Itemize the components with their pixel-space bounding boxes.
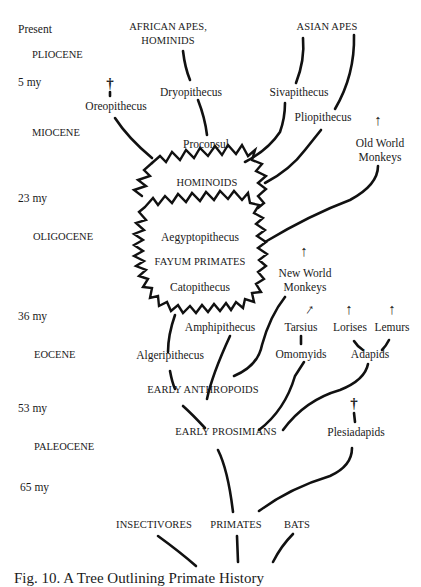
time-36my: 36 my <box>18 309 47 323</box>
node-tarsius: Tarsius <box>284 320 317 334</box>
node-african-apes: AFRICAN APES, HOMINIDS <box>129 20 207 48</box>
arrow-up-icon: ↑ <box>388 302 396 317</box>
branch-primates-root <box>237 536 238 562</box>
branch-hominoids-oreopithecus <box>115 118 152 158</box>
node-hominoids: HOMINOIDS <box>177 176 238 190</box>
branch-fayum-oldworld <box>265 166 378 242</box>
node-algeripithecus: Algeripithecus <box>136 348 204 362</box>
node-early-anthropoids: EARLY ANTHROPOIDS <box>147 383 258 397</box>
extinct-dagger-icon: † <box>350 396 358 411</box>
epoch-pliocene: PLIOCENE <box>32 48 83 62</box>
epoch-oligocene: OLIGOCENE <box>33 230 93 244</box>
time-present: Present <box>18 22 52 36</box>
branch-sivapithecus-asian <box>296 38 303 83</box>
branch-primates-plesiadapids <box>259 448 352 511</box>
node-early-prosimians: EARLY PROSIMIANS <box>175 425 276 439</box>
node-primates: PRIMATES <box>210 518 262 532</box>
epoch-miocene: MIOCENE <box>32 126 80 140</box>
node-bats: BATS <box>284 518 310 532</box>
node-proconsul: Proconsul <box>183 137 229 151</box>
fayum-zigzag-border <box>134 191 267 313</box>
arrow-up-icon: ↑ <box>300 244 308 259</box>
branch-hominoids-pliopithecus <box>265 130 321 183</box>
node-asian-apes: ASIAN APES <box>297 20 358 34</box>
branch-bats-root <box>273 534 293 562</box>
node-lemurs: Lemurs <box>374 320 409 334</box>
node-oreopithecus: Oreopithecus <box>85 99 146 113</box>
node-plesiadapids: Plesiadapids <box>327 425 385 439</box>
node-old-world-monkeys: Old World Monkeys <box>356 136 404 164</box>
branch-prosimians-omomyids <box>259 362 304 430</box>
node-pliopithecus: Pliopithecus <box>295 110 352 124</box>
arrow-up-icon: ↑ <box>374 113 382 128</box>
node-omomyids: Omomyids <box>275 347 326 361</box>
time-65my: 65 my <box>20 480 49 494</box>
branch-insectivores-root <box>158 536 196 566</box>
extinct-dagger-icon: † <box>106 76 114 91</box>
node-catopithecus: Catopithecus <box>170 280 230 294</box>
node-insectivores: INSECTIVORES <box>116 518 192 532</box>
node-amphipithecus: Amphipithecus <box>185 320 255 334</box>
branch-anthropoids-newworld <box>234 297 285 376</box>
hominoids-zigzag-left <box>134 163 152 196</box>
node-adapids: Adapids <box>351 347 389 361</box>
arrow-up-icon: ↑ <box>345 302 353 317</box>
branch-dryopithecus-african <box>183 51 190 80</box>
node-sivapithecus: Sivapithecus <box>270 85 329 99</box>
node-new-world-monkeys: New World Monkeys <box>279 266 332 294</box>
branch-primates-early-prosimians <box>218 450 233 512</box>
branch-plesiadapids-dash <box>354 413 355 422</box>
figure-caption: Fig. 10. A Tree Outlining Primate Histor… <box>14 570 264 587</box>
time-53my: 53 my <box>18 401 47 415</box>
node-fayum-primates: FAYUM PRIMATES <box>155 255 246 269</box>
time-23my: 23 my <box>18 191 47 205</box>
node-aegyptopithecus: Aegyptopithecus <box>161 230 239 244</box>
node-lorises: Lorises <box>333 320 367 334</box>
branch-pliopithecus-asian <box>335 35 354 109</box>
branch-proconsul-dryopithecus <box>198 100 207 135</box>
epoch-paleocene: PALEOCENE <box>34 440 94 454</box>
time-5my: 5 my <box>18 75 41 89</box>
epoch-eocene: EOCENE <box>34 348 75 362</box>
node-dryopithecus: Dryopithecus <box>160 85 222 99</box>
branch-algeripithecus-fayum <box>168 315 175 352</box>
